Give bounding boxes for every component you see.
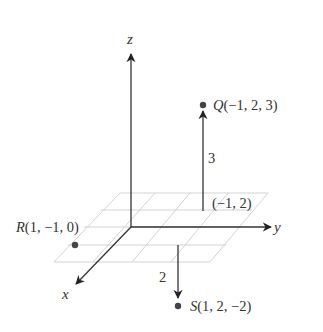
coordinate-diagram: z y x Q(−1, 2, 3) 3 (−1, 2) R(1, −1, 0) … <box>0 0 323 332</box>
x-axis-label: x <box>61 286 69 302</box>
point-q <box>200 102 206 108</box>
z-axis-label: z <box>126 31 133 47</box>
point-r <box>72 242 78 248</box>
x-axis <box>76 227 131 284</box>
projection-label: (−1, 2) <box>212 195 252 212</box>
y-axis-label: y <box>272 219 281 235</box>
s-depth-label: 2 <box>159 269 166 285</box>
point-s-label: S(1, 2, −2) <box>190 298 252 315</box>
point-s <box>175 303 181 309</box>
q-height-label: 3 <box>208 150 215 166</box>
axes <box>76 54 271 284</box>
point-q-label: Q(−1, 2, 3) <box>213 97 278 114</box>
point-r-label: R(1, −1, 0) <box>15 219 79 236</box>
